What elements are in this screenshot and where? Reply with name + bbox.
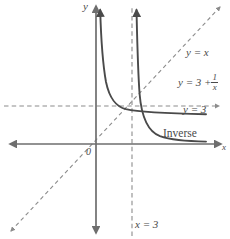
fraction-one-over-x: 1 x bbox=[211, 73, 218, 93]
label-inverse-curve: Inverse bbox=[163, 128, 197, 140]
label-y-axis: y bbox=[83, 1, 88, 12]
fraction-numerator: 1 bbox=[211, 73, 218, 82]
label-horizontal-asymptote: y = 3 bbox=[183, 104, 206, 115]
curve-original-function bbox=[100, 10, 206, 114]
label-vertical-asymptote: x = 3 bbox=[135, 219, 158, 230]
label-y-equals-x: y = x bbox=[186, 47, 209, 58]
fraction-denominator: x bbox=[211, 82, 218, 92]
label-function-lead: y = 3 + bbox=[178, 76, 211, 88]
line-y-equals-x bbox=[11, 7, 220, 231]
label-x-axis: x bbox=[222, 143, 226, 152]
coordinate-plane bbox=[0, 0, 230, 239]
label-origin: 0 bbox=[86, 147, 91, 157]
label-function-equation: y = 3 + 1 x bbox=[178, 74, 218, 94]
graph-figure: y = x y = 3 + 1 x y = 3 Inverse x = 3 0 … bbox=[0, 0, 230, 239]
